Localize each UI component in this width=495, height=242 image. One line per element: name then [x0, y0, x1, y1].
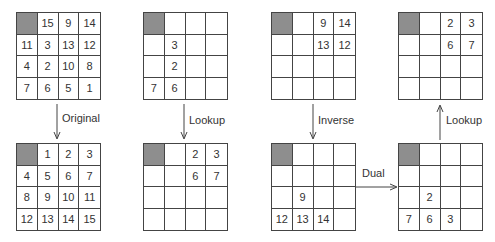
tile: 3 [165, 35, 186, 57]
tile: 4 [17, 56, 38, 78]
tile [206, 13, 227, 35]
tile: 15 [79, 209, 100, 231]
tile: 7 [461, 35, 482, 57]
tile [334, 144, 355, 166]
tile [420, 56, 441, 78]
puzzle-grid-g3-bottom: 9121314 [271, 143, 356, 231]
tile: 5 [38, 166, 59, 188]
tile: 1 [79, 78, 100, 100]
tile: 14 [334, 13, 355, 35]
tile [420, 144, 441, 166]
tile [334, 56, 355, 78]
tile [293, 78, 314, 100]
tile: 4 [17, 166, 38, 188]
tile: 15 [38, 13, 59, 35]
tile [399, 187, 420, 209]
tile: 3 [441, 209, 462, 231]
tile: 3 [461, 13, 482, 35]
tile: 13 [314, 35, 335, 57]
tile [272, 35, 293, 57]
tile [293, 144, 314, 166]
tile: 11 [79, 187, 100, 209]
tile [461, 78, 482, 100]
tile [314, 144, 335, 166]
blank-tile [272, 144, 293, 166]
arrow-right-icon [356, 182, 398, 192]
tile: 9 [59, 13, 80, 35]
tile [144, 35, 165, 57]
tile: 9 [38, 187, 59, 209]
tile [420, 78, 441, 100]
tile [461, 166, 482, 188]
tile [420, 35, 441, 57]
tile [441, 56, 462, 78]
tile: 2 [59, 144, 80, 166]
blank-tile [399, 13, 420, 35]
tile: 2 [165, 56, 186, 78]
tile [420, 13, 441, 35]
tile: 6 [420, 209, 441, 231]
tile [186, 56, 207, 78]
blank-tile [144, 144, 165, 166]
tile [399, 35, 420, 57]
tile [293, 13, 314, 35]
arrow-label-lookup: Lookup [189, 114, 225, 126]
tile [461, 209, 482, 231]
tile: 2 [186, 144, 207, 166]
arrow-label-original: Original [62, 112, 100, 124]
tile [186, 13, 207, 35]
tile [441, 166, 462, 188]
tile: 3 [79, 144, 100, 166]
tile [334, 209, 355, 231]
tile: 14 [59, 209, 80, 231]
tile: 8 [17, 187, 38, 209]
tile: 2 [420, 187, 441, 209]
tile [165, 209, 186, 231]
tile [334, 78, 355, 100]
tile [314, 78, 335, 100]
tile: 7 [144, 78, 165, 100]
puzzle-grid-g3-top: 9141312 [271, 12, 356, 100]
tile [272, 166, 293, 188]
tile: 12 [334, 35, 355, 57]
tile: 12 [17, 209, 38, 231]
tile [206, 56, 227, 78]
tile [272, 187, 293, 209]
tile [441, 78, 462, 100]
tile [334, 187, 355, 209]
tile: 12 [79, 35, 100, 57]
tile: 6 [38, 78, 59, 100]
tile: 13 [293, 209, 314, 231]
tile [441, 144, 462, 166]
puzzle-grid-g4-bottom: 2763 [398, 143, 483, 231]
puzzle-grid-g2-top: 3276 [143, 12, 228, 100]
tile: 8 [79, 56, 100, 78]
tile [441, 187, 462, 209]
tile [272, 78, 293, 100]
blank-tile [272, 13, 293, 35]
tile: 6 [59, 166, 80, 188]
tile: 13 [59, 35, 80, 57]
tile: 14 [79, 13, 100, 35]
puzzle-grid-g2-bottom: 2367 [143, 143, 228, 231]
puzzle-grid-g4-top: 2367 [398, 12, 483, 100]
tile: 2 [38, 56, 59, 78]
tile [144, 166, 165, 188]
tile [461, 56, 482, 78]
tile: 3 [38, 35, 59, 57]
tile [461, 187, 482, 209]
tile [186, 187, 207, 209]
tile [186, 35, 207, 57]
tile [399, 78, 420, 100]
tile [144, 209, 165, 231]
tile: 6 [165, 78, 186, 100]
tile [206, 187, 227, 209]
tile: 10 [59, 56, 80, 78]
tile [399, 166, 420, 188]
tile: 9 [314, 13, 335, 35]
arrow-label-inverse: Inverse [318, 114, 354, 126]
arrow-label-dual: Dual [362, 167, 385, 179]
tile: 1 [38, 144, 59, 166]
tile [293, 56, 314, 78]
arrow-up-icon [435, 104, 445, 140]
